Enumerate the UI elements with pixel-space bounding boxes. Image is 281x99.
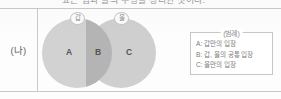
table-top-rule	[0, 8, 281, 9]
venn-region-label-c: C	[126, 47, 132, 57]
venn-circle-tag-gap: 갑	[70, 12, 85, 25]
venn-circle-tag-eul: 을	[114, 12, 129, 25]
clipped-heading-text: 표는 갑과 을의 주장을 정리한 것이다.	[62, 0, 242, 6]
legend-box: (범례) A: 갑만의 입장 B: 갑, 을의 공통 입장 C: 을만의 입장	[190, 32, 273, 75]
legend-item: B: 갑, 을의 공통 입장	[196, 50, 269, 61]
venn-region-label-b: B	[95, 47, 101, 57]
scanned-figure-page: 표는 갑과 을의 주장을 정리한 것이다. (나) A B C 갑 을 (범례)…	[0, 0, 281, 99]
table-bottom-rule	[0, 91, 281, 92]
legend-item-list: A: 갑만의 입장 B: 갑, 을의 공통 입장 C: 을만의 입장	[196, 39, 269, 71]
venn-diagram: A B C 갑 을	[42, 14, 170, 88]
table-column-divider	[37, 8, 38, 92]
row-label-cell: (나)	[0, 9, 37, 91]
legend-item: A: 갑만의 입장	[196, 39, 269, 50]
row-label-text: (나)	[11, 43, 27, 57]
legend-item: C: 을만의 입장	[196, 60, 269, 71]
legend-title: (범례)	[220, 28, 243, 38]
venn-region-label-a: A	[66, 47, 72, 57]
